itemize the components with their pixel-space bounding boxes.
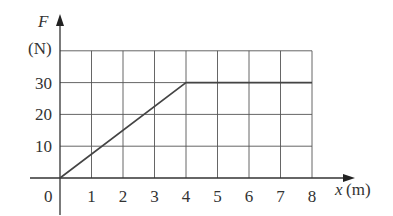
y-tick-label: 30 xyxy=(35,74,52,93)
x-tick-label: 8 xyxy=(308,187,317,206)
x-axis-label-var: x xyxy=(334,180,343,199)
y-axis-label-var: F xyxy=(37,12,49,31)
x-tick-label: 2 xyxy=(119,187,128,206)
grid xyxy=(60,51,312,178)
x-tick-label: 3 xyxy=(150,187,159,206)
x-tick-label: 6 xyxy=(245,187,254,206)
y-axis-arrow-icon xyxy=(56,14,64,26)
x-tick-label: 4 xyxy=(182,187,191,206)
origin-label: 0 xyxy=(44,187,53,206)
x-axis-label-unit: (m) xyxy=(346,180,371,199)
y-tick-label: 10 xyxy=(35,137,52,156)
force-vs-position-chart: 12345678102030 F (N) 0 x (m) xyxy=(0,0,393,216)
x-tick-label: 5 xyxy=(213,187,222,206)
x-tick-label: 1 xyxy=(87,187,96,206)
x-tick-label: 7 xyxy=(276,187,285,206)
y-axis-label-unit: (N) xyxy=(28,39,52,58)
tick-labels: 12345678102030 xyxy=(35,74,316,206)
y-tick-label: 20 xyxy=(35,105,52,124)
